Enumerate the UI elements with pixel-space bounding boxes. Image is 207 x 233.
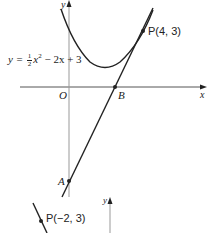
second-line bbox=[33, 203, 47, 233]
y-axis-label: y bbox=[61, 0, 65, 10]
point-p2-label: P(−2, 3) bbox=[46, 213, 85, 224]
equation-lhs: y = bbox=[8, 53, 26, 65]
point-p-label: P(4, 3) bbox=[148, 26, 181, 37]
second-y-axis-arrow-icon bbox=[108, 197, 113, 204]
tangent-line bbox=[62, 8, 153, 197]
second-y-axis-label: y bbox=[103, 196, 107, 205]
equation-fraction: 12 bbox=[27, 53, 33, 68]
y-axis-arrow-icon bbox=[67, 0, 72, 7]
origin-label: O bbox=[59, 90, 67, 101]
point-p bbox=[141, 29, 145, 33]
point-b-label: B bbox=[118, 90, 125, 101]
curve-equation: y = 12x2 − 2x + 3 bbox=[8, 53, 82, 68]
point-a-label: A bbox=[58, 176, 65, 187]
point-b bbox=[113, 85, 117, 89]
x-axis-label: x bbox=[200, 90, 204, 100]
point-a bbox=[67, 179, 71, 183]
point-p2 bbox=[39, 219, 43, 223]
